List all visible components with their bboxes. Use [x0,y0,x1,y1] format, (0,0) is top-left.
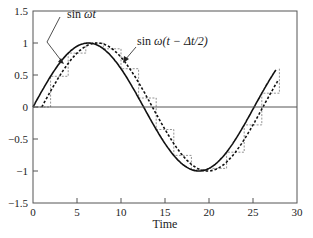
annotation-label-prefix: sin [137,34,154,48]
y-tick-label: 0 [23,101,29,113]
annotation-sin-wt: sin ωt [47,7,96,64]
x-tick-label: 30 [292,206,304,218]
y-tick-label: 0.5 [14,69,28,81]
annotation-label-italic: ωt [84,7,96,21]
y-tick-label: −0.5 [8,133,28,145]
x-tick-label: 10 [116,206,128,218]
x-axis-title: Time [153,217,178,231]
x-tick-label: 20 [204,206,216,218]
x-tick-label: 25 [248,206,260,218]
y-tick-label: −1.5 [8,197,28,209]
y-tick-label: 1 [23,37,29,49]
y-tick-label: −1 [16,165,28,177]
x-tick-label: 0 [30,206,36,218]
y-tick-label: 1.5 [14,5,28,17]
annotation-leader-line [47,17,63,63]
annotation-label-italic: ω(t − Δt/2) [154,34,208,48]
svg-text:sin ωt: sin ωt [67,7,96,21]
arrowhead-icon [123,56,129,63]
annotation-label-prefix: sin [67,7,84,21]
x-tick-label: 5 [74,206,80,218]
series-zero-order-hold [33,43,279,169]
chart: 051015202530 1.510.50−0.5−1−1.5 Time sin… [0,0,313,238]
x-axis-ticks: 051015202530 [30,198,303,218]
annotation-sin-delayed: sin ω(t − Δt/2) [123,34,208,63]
y-axis-ticks: 1.510.50−0.5−1−1.5 [8,5,38,209]
svg-text:sin ω(t − Δt/2): sin ω(t − Δt/2) [137,34,208,48]
